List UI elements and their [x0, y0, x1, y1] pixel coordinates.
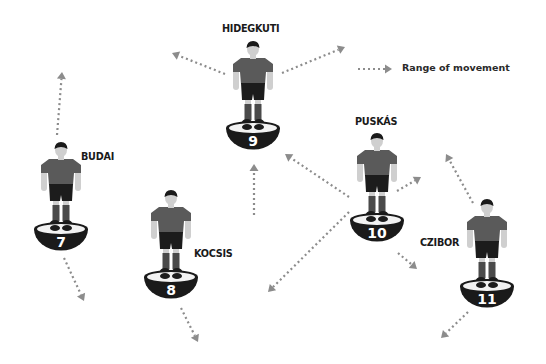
shirt-number: 9 [248, 133, 258, 149]
arrowhead-icon [57, 72, 66, 79]
subbuteo-base-icon: 11 [460, 279, 514, 308]
movement-arrow [445, 154, 473, 203]
player-czibor: 11 [460, 199, 514, 308]
player-kocsis: 8 [144, 190, 198, 299]
legend-label: Range of movement [402, 62, 510, 73]
legend-arrow-icon [358, 65, 392, 74]
movement-arrow [172, 51, 225, 74]
arrowhead-icon [77, 293, 85, 301]
subbuteo-base-icon: 8 [144, 270, 198, 299]
footballer-figure-icon [233, 41, 273, 125]
subbuteo-base-icon: 10 [350, 213, 404, 242]
player-name-label: CZIBOR [420, 236, 459, 249]
movement-arrow [282, 46, 345, 73]
shirt-number: 10 [367, 225, 387, 241]
footballer-figure-icon [467, 199, 507, 283]
movement-arrow [441, 312, 468, 338]
arrowhead-icon [172, 51, 180, 59]
formation-diagram: 9781011 HIDEGKUTIBUDAIKOCSISPUSKÁSCZIBOR… [0, 0, 546, 364]
subbuteo-base-icon: 9 [226, 121, 280, 150]
movement-arrow [285, 154, 349, 197]
player-hidegkuti: 9 [226, 41, 280, 150]
player-puskás: 10 [350, 133, 404, 242]
movement-arrow [268, 212, 349, 292]
player-name-label: KOCSIS [194, 247, 233, 260]
movement-arrow [398, 253, 417, 269]
movement-arrows [57, 46, 473, 342]
arrowhead-icon [268, 284, 276, 292]
arrowhead-icon [445, 154, 453, 162]
player-name-label: PUSKÁS [355, 115, 397, 128]
movement-arrow [397, 177, 421, 191]
footballer-figure-icon [151, 190, 191, 274]
footballer-figure-icon [357, 133, 397, 217]
arrowhead-icon [250, 164, 259, 171]
movement-arrow [250, 164, 259, 215]
movement-arrow [64, 258, 85, 301]
arrowhead-icon [285, 154, 293, 162]
player-name-label: HIDEGKUTI [222, 22, 279, 35]
arrowhead-icon [441, 330, 449, 338]
footballer-figure-icon [41, 142, 81, 226]
player-budai: 7 [34, 142, 88, 251]
players: 9781011 [34, 41, 514, 308]
shirt-number: 7 [56, 234, 66, 250]
movement-arrow [181, 308, 199, 342]
arrowhead-icon [413, 177, 421, 185]
subbuteo-base-icon: 7 [34, 222, 88, 251]
shirt-number: 11 [477, 291, 496, 307]
player-name-label: BUDAI [81, 150, 114, 163]
movement-arrow [57, 72, 66, 135]
arrowhead-icon [385, 65, 392, 74]
shirt-number: 8 [166, 282, 176, 298]
diagram-canvas: 9781011 [0, 0, 546, 364]
legend [358, 65, 392, 74]
